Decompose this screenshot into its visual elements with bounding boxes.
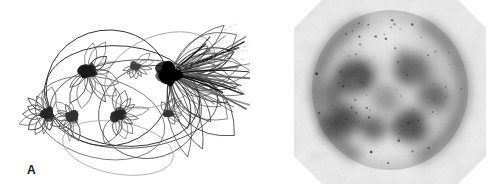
figure-container: A [0,0,499,194]
panel-a: A [0,0,250,194]
node-core-blob [114,110,126,114]
panel-b-micrograph [250,0,499,194]
panel-b: B [250,0,499,194]
node-core-blob [65,112,74,119]
node-core-blob [163,111,170,117]
node-core-blob [115,116,125,120]
node-core-blob [78,64,92,74]
node-core-blob [160,68,183,81]
panel-a-label: A [27,164,36,176]
node-core-blob [135,64,139,67]
panel-a-drawing [0,0,250,194]
node-core-blob [39,112,49,118]
